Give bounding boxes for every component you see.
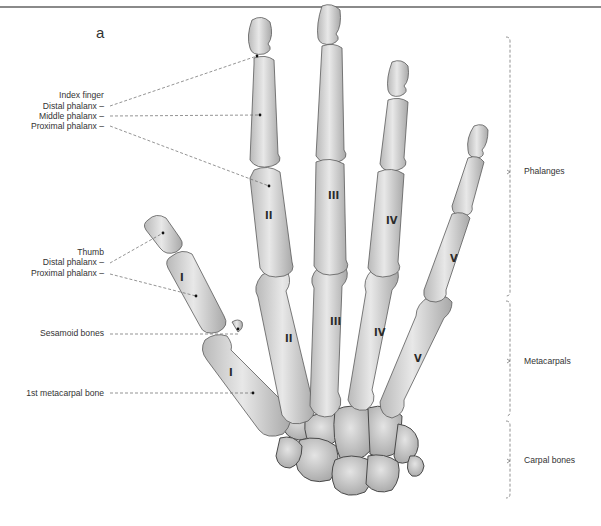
label-phalanges: Phalanges bbox=[524, 166, 565, 176]
ring-finger-phalanges bbox=[368, 61, 409, 277]
index-finger-phalanges bbox=[248, 17, 293, 277]
label-index-finger: Index finger bbox=[59, 90, 104, 101]
region-brackets bbox=[506, 37, 510, 498]
numeral-metacarpal-3: III bbox=[330, 316, 341, 327]
label-index-middle-phalanx: Middle phalanx – bbox=[39, 111, 104, 122]
label-sesamoid-bones: Sesamoid bones bbox=[40, 328, 104, 339]
label-thumb-distal-phalanx: Distal phalanx – bbox=[43, 257, 104, 268]
metacarpals-bracket bbox=[506, 301, 510, 416]
middle-finger-phalanges bbox=[314, 5, 348, 275]
numeral-little-phalanx: V bbox=[450, 253, 458, 264]
numeral-metacarpal-1: I bbox=[229, 367, 233, 378]
little-finger-phalanges bbox=[424, 125, 488, 302]
metacarpal-bones bbox=[202, 264, 452, 436]
label-thumb-proximal-phalanx: Proximal phalanx – bbox=[31, 268, 104, 279]
label-first-metacarpal-bone: 1st metacarpal bone bbox=[26, 388, 104, 399]
label-index-distal-phalanx: Distal phalanx – bbox=[43, 101, 104, 112]
numeral-metacarpal-2: II bbox=[285, 333, 292, 344]
label-thumb: Thumb bbox=[77, 247, 104, 258]
thumb-phalanges bbox=[144, 215, 242, 333]
label-carpal-bones: Carpal bones bbox=[524, 455, 575, 465]
numeral-index-phalanx: II bbox=[265, 210, 272, 221]
numeral-metacarpal-4: IV bbox=[374, 327, 386, 338]
leader-lines bbox=[110, 56, 269, 393]
numeral-middle-phalanx: III bbox=[328, 190, 339, 201]
phalanges-bracket bbox=[506, 37, 510, 296]
label-index-proximal-phalanx: Proximal phalanx – bbox=[31, 121, 104, 132]
numeral-thumb-phalanx: I bbox=[180, 272, 184, 283]
numeral-metacarpal-5: V bbox=[414, 353, 422, 364]
numeral-ring-phalanx: IV bbox=[386, 215, 398, 226]
label-metacarpals: Metacarpals bbox=[524, 356, 571, 366]
